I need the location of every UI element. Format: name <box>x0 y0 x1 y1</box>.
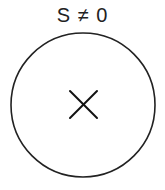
cross-icon <box>70 91 97 118</box>
diagram-canvas <box>0 0 165 190</box>
